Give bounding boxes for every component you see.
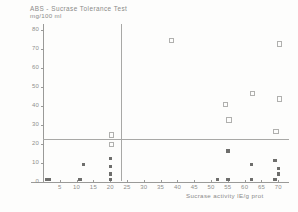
data-point: [109, 157, 112, 160]
data-point: [250, 91, 255, 96]
x-tick-mark: [211, 180, 212, 183]
data-point: [250, 178, 253, 181]
x-tick-label: 20: [102, 184, 118, 190]
x-tick-label: 10: [69, 184, 85, 190]
x-tick-label: 35: [153, 184, 169, 190]
y-tick-mark: [41, 163, 44, 164]
x-tick-label: 5: [52, 184, 68, 190]
data-point: [169, 38, 174, 43]
x-axis-title: Sucrase activity IE/g prot: [186, 192, 264, 199]
x-tick-mark: [77, 180, 78, 183]
x-tick-label: 65: [253, 184, 269, 190]
x-tick-label: 70: [270, 184, 286, 190]
x-tick-label: 55: [220, 184, 236, 190]
data-point: [109, 132, 114, 137]
data-point: [216, 178, 219, 181]
data-point: [82, 163, 85, 166]
y-tick-label: 20: [24, 140, 39, 146]
data-point: [273, 129, 278, 134]
y-tick-label: 70: [24, 45, 39, 51]
data-point: [78, 178, 81, 181]
y-tick-mark: [41, 68, 44, 69]
data-point: [109, 142, 114, 147]
x-tick-label: 60: [237, 184, 253, 190]
x-tick-label: 45: [186, 184, 202, 190]
data-point: [48, 178, 51, 181]
y-tick-label: 40: [24, 102, 39, 108]
horizontal-reference-line: [43, 139, 289, 140]
y-tick-label: 60: [24, 64, 39, 70]
data-point: [273, 178, 276, 181]
y-tick-label: 10: [24, 159, 39, 165]
vertical-reference-line: [121, 24, 122, 181]
y-tick-mark: [41, 144, 44, 145]
y-tick-label: 50: [24, 83, 39, 89]
data-point: [277, 167, 280, 170]
chart-title: ABS - Sucrase Tolerance Test: [30, 5, 127, 12]
data-point: [273, 159, 276, 162]
data-point: [277, 96, 282, 101]
data-point: [226, 117, 231, 122]
x-tick-label: 50: [203, 184, 219, 190]
x-tick-mark: [60, 180, 61, 183]
x-tick-label: 15: [85, 184, 101, 190]
y-tick-mark: [41, 182, 44, 183]
y-axis-line: [43, 24, 44, 182]
x-tick-label: 30: [136, 184, 152, 190]
data-point: [226, 149, 229, 152]
x-tick-mark: [245, 180, 246, 183]
y-tick-label: 30: [24, 121, 39, 127]
x-tick-mark: [144, 180, 145, 183]
data-point: [250, 163, 253, 166]
x-tick-label: 25: [119, 184, 135, 190]
data-point: [223, 102, 228, 107]
data-point: [109, 172, 112, 175]
chart-canvas: ABS - Sucrase Tolerance Test mg/100 ml 0…: [0, 0, 298, 212]
data-point: [226, 178, 229, 181]
y-tick-label: 80: [24, 26, 39, 32]
y-tick-mark: [41, 87, 44, 88]
x-tick-mark: [93, 180, 94, 183]
x-tick-mark: [278, 180, 279, 183]
data-point: [109, 178, 112, 181]
x-tick-mark: [161, 180, 162, 183]
y-tick-mark: [41, 106, 44, 107]
y-tick-label: 0: [24, 178, 39, 184]
y-tick-mark: [41, 30, 44, 31]
x-tick-mark: [194, 180, 195, 183]
x-tick-mark: [127, 180, 128, 183]
x-tick-mark: [261, 180, 262, 183]
x-tick-mark: [177, 180, 178, 183]
y-axis-unit-label: mg/100 ml: [30, 12, 62, 19]
y-tick-mark: [41, 49, 44, 50]
y-tick-mark: [41, 125, 44, 126]
data-point: [277, 172, 280, 175]
data-point: [109, 165, 112, 168]
x-tick-label: 40: [169, 184, 185, 190]
data-point: [277, 41, 282, 46]
